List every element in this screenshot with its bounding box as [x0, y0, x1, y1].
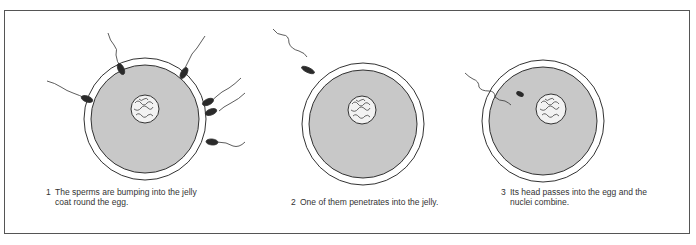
caption-text: Its head passes into the egg and the nuc… [510, 187, 696, 207]
figure-frame: 1 The sperms are bumping into the jelly … [4, 10, 690, 234]
sperm-icon [47, 81, 94, 104]
caption-number: 1 [46, 187, 51, 197]
sperm-icon [201, 78, 241, 107]
nucleus-icon [131, 95, 159, 123]
panel-1: 1 The sperms are bumping into the jelly … [5, 11, 235, 233]
sperm-icon [178, 36, 205, 80]
sperm-icon [273, 29, 315, 75]
caption-text: The sperms are bumping into the jelly co… [55, 187, 255, 207]
nucleus-icon [348, 96, 376, 124]
panel-2: 2 One of them penetrates into the jelly. [241, 11, 461, 233]
sperm-icon [204, 93, 245, 117]
panel-3: 3 Its head passes into the egg and the n… [461, 11, 689, 233]
caption-number: 2 [291, 197, 296, 207]
sperm-icon [206, 138, 245, 146]
caption-number: 3 [501, 187, 506, 197]
